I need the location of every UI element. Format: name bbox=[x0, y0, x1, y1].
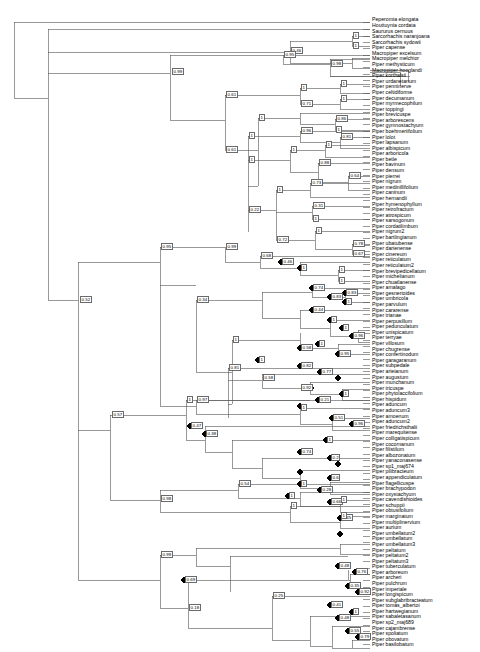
support-value-label: 1 bbox=[336, 126, 342, 133]
support-value-label: 1 bbox=[331, 316, 337, 323]
support-value-label: 0.95 bbox=[161, 243, 173, 250]
support-value-label: 0.41 bbox=[331, 601, 343, 608]
support-value-label: 0.95 bbox=[339, 350, 351, 357]
support-value-label: 1 bbox=[301, 480, 307, 487]
support-value-label: 0.61 bbox=[226, 91, 238, 98]
support-value-label: 0.2 bbox=[331, 454, 340, 461]
support-value-label: 1 bbox=[301, 264, 307, 271]
support-value-label: 0.54 bbox=[239, 480, 251, 487]
support-value-label: 1 bbox=[291, 502, 297, 509]
support-value-label: 0.99 bbox=[161, 551, 173, 558]
support-value-label: 1 bbox=[249, 132, 255, 139]
support-value-label: 0.83 bbox=[346, 289, 358, 296]
support-value-label: 0.28 bbox=[321, 486, 333, 493]
support-value-label: 1 bbox=[346, 298, 352, 305]
support-value-label: 1 bbox=[289, 492, 295, 499]
support-value-label: 0.34 bbox=[197, 296, 209, 303]
support-value-label: 0.82 bbox=[301, 362, 313, 369]
support-value-label: 0.86 bbox=[336, 115, 348, 122]
support-value-label: 1 bbox=[291, 146, 297, 153]
support-value-label: 0.25 bbox=[273, 592, 285, 599]
support-value-label: 1 bbox=[249, 156, 255, 163]
support-value-label: 1 bbox=[339, 266, 345, 273]
support-value-label: 0.44 bbox=[313, 306, 325, 313]
support-value-label: 1 bbox=[341, 95, 347, 102]
support-value-label: 0.83 bbox=[331, 293, 343, 300]
support-value-label: 1 bbox=[301, 404, 307, 411]
support-value-label: 1 bbox=[319, 340, 325, 347]
support-value-label: 0.92 bbox=[301, 384, 313, 391]
support-value-label: 1 bbox=[233, 336, 239, 343]
support-value-label: 1 bbox=[343, 390, 349, 397]
support-value-label: 0.72 bbox=[277, 236, 289, 243]
support-value-label: 0.6 bbox=[331, 474, 340, 481]
support-value-label: 1 bbox=[327, 436, 333, 443]
support-value-label: 0.98 bbox=[331, 60, 343, 67]
support-value-label: 0.71 bbox=[301, 100, 313, 107]
support-value-label: 0.46 bbox=[282, 258, 294, 265]
support-value-label: 1 bbox=[326, 141, 332, 148]
support-value-label: 0.78 bbox=[353, 240, 365, 247]
support-value-label: 0.88 bbox=[319, 159, 331, 166]
support-value-label: 1 bbox=[343, 324, 349, 331]
support-value-label: 1 bbox=[313, 215, 319, 222]
support-value-label: 0.68 bbox=[261, 252, 273, 259]
support-value-label: 1 bbox=[187, 396, 193, 403]
support-value-label: 0.98 bbox=[161, 495, 173, 502]
support-value-label: 0.74 bbox=[313, 284, 325, 291]
support-value-label: 0.48 bbox=[339, 562, 351, 569]
support-value-label: 0.97 bbox=[197, 396, 209, 403]
support-value-label: 0.79 bbox=[359, 633, 371, 640]
support-value-label: 1 bbox=[353, 32, 359, 39]
support-value-label: 0.67 bbox=[353, 250, 365, 257]
support-value-label: 0.58 bbox=[301, 344, 313, 351]
support-value-label: 0.31 bbox=[313, 202, 325, 209]
support-value-label: 0.99 bbox=[226, 243, 238, 250]
support-value-label: 0.48 bbox=[339, 614, 351, 621]
support-value-label: 0.73 bbox=[311, 179, 323, 186]
support-value-label: 1 bbox=[353, 42, 359, 49]
support-value-label: 0.77 bbox=[321, 368, 333, 375]
support-value-label: 0.95 bbox=[284, 51, 296, 58]
support-value-label: 0.81 bbox=[229, 364, 241, 371]
support-value-label: 0.58 bbox=[263, 374, 275, 381]
support-value-label: 0.47 bbox=[191, 422, 203, 429]
support-value-label: 0.96 bbox=[353, 332, 365, 339]
support-value-label: 0.61 bbox=[226, 146, 238, 153]
support-value-label: 1 bbox=[353, 608, 359, 615]
support-value-label: 0.96 bbox=[353, 420, 365, 427]
support-value-label: 0.92 bbox=[359, 588, 371, 595]
support-value-label: 1 bbox=[339, 277, 345, 284]
support-value-label: 0.52 bbox=[80, 296, 92, 303]
support-value-label: 0.51 bbox=[333, 414, 345, 421]
support-value-label: 1 bbox=[341, 512, 347, 519]
support-value-label: 0.74 bbox=[301, 448, 313, 455]
support-value-label: 0.99 bbox=[172, 68, 184, 75]
support-value-label: 1 bbox=[341, 80, 347, 87]
support-value-label: 0.21 bbox=[319, 396, 331, 403]
support-value-label: 0.76 bbox=[356, 568, 368, 575]
support-value-label: 0.38 bbox=[206, 430, 218, 437]
support-value-label: 0.57 bbox=[112, 411, 124, 418]
tree-figure-canvas: Peperomia elongataHouttuynia cordataSaur… bbox=[0, 0, 480, 652]
support-value-label: 0.64 bbox=[349, 172, 361, 179]
support-value-label: 0.96 bbox=[301, 127, 313, 134]
support-value-label: 0.81 bbox=[341, 133, 353, 140]
support-value-label: 1 bbox=[259, 356, 265, 363]
support-value-label: 1 bbox=[301, 84, 307, 91]
tip-label: Piper basilobatum bbox=[372, 642, 414, 647]
support-value-label: 0.18 bbox=[189, 604, 201, 611]
support-value-label: 0.69 bbox=[185, 576, 197, 583]
support-value-label: 1 bbox=[259, 114, 265, 121]
support-value-label: 0.22 bbox=[249, 206, 261, 213]
support-value-label: 1 bbox=[316, 227, 322, 234]
support-value-label: 1 bbox=[277, 186, 283, 193]
support-value-label: 1 bbox=[341, 496, 347, 503]
